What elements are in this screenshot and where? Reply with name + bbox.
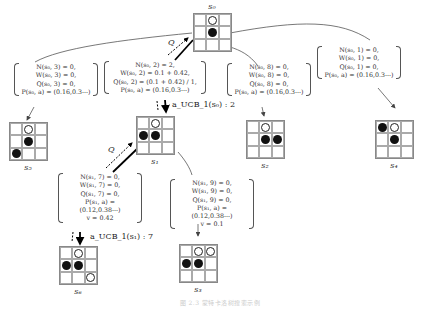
board-cell — [149, 129, 161, 141]
stat-line: P(s₀, a) = (0.16,0.3⋯) — [323, 71, 395, 79]
board-s3 — [179, 244, 218, 283]
board-cell — [149, 117, 161, 129]
brace-left — [317, 46, 322, 79]
stat-value-line: v = 0.42 — [64, 214, 136, 222]
white-stone-icon — [151, 119, 160, 128]
black-stone-icon — [378, 123, 387, 132]
board-cell — [401, 121, 413, 133]
board-cell — [376, 133, 388, 145]
black-stone-icon — [74, 261, 83, 270]
stat-line: N(s₀, 3) = 0, — [20, 63, 92, 71]
white-stone-icon — [208, 16, 217, 25]
stat-line: N(s₀, 2) = 2, — [110, 61, 200, 69]
white-stone-icon — [206, 247, 215, 256]
board-cell — [194, 39, 206, 51]
board-cell — [10, 123, 22, 135]
board-s0 — [193, 13, 232, 52]
brace-right — [137, 173, 142, 223]
stats-s1-a7: N(s₁, 7) = 0, W(s₁, 7) = 0, Q(s₁, 7) = 0… — [64, 173, 136, 223]
stat-line: W(s₀, 2) = 0.1 + 0.42, — [110, 69, 200, 77]
stat-line: N(s₁, 7) = 0, — [64, 173, 136, 181]
board-cell — [180, 257, 192, 269]
black-stone-icon — [208, 28, 217, 37]
board-cell — [192, 257, 204, 269]
stats-s0-a3: N(s₀, 3) = 0, W(s₀, 3) = 0, Q(s₀, 3) = 0… — [20, 63, 92, 96]
board-cell — [247, 121, 259, 133]
stat-line: N(s₀, 8) = 0, — [233, 63, 305, 71]
board-cell — [162, 117, 174, 129]
stat-line: N(s₀, 1) = 0, — [323, 46, 395, 54]
backup-q-label-mid: Q — [108, 145, 115, 154]
stats-s1-a9: N(s₁, 9) = 0, W(s₁, 9) = 0, Q(s₁, 9) = 0… — [176, 179, 248, 229]
board-cell — [206, 26, 218, 38]
stat-line: Q(s₀, 1) = 0, — [323, 63, 395, 71]
black-stone-icon — [390, 135, 399, 144]
board-cell — [60, 272, 72, 284]
brace-left — [14, 63, 19, 96]
board-cell — [85, 259, 97, 271]
label-s1: s₁ — [140, 157, 170, 166]
stat-line: P(s₀, a) = (0.16,0.3⋯) — [233, 88, 305, 96]
board-cell — [35, 123, 47, 135]
board-cell — [205, 270, 217, 282]
board-cell — [247, 146, 259, 158]
stat-line: W(s₀, 1) = 0, — [323, 54, 395, 62]
board-cell — [192, 245, 204, 257]
board-cell — [22, 135, 34, 147]
board-cell — [72, 247, 84, 259]
board-cell — [180, 245, 192, 257]
board-cell — [180, 270, 192, 282]
black-stone-icon — [62, 261, 71, 270]
board-s6 — [59, 246, 98, 285]
label-s6: s₆ — [63, 287, 93, 296]
board-cell — [206, 14, 218, 26]
board-cell — [192, 270, 204, 282]
white-stone-icon — [24, 125, 33, 134]
brace-left — [227, 63, 232, 96]
stat-value-line: v = 0.1 — [176, 220, 248, 228]
board-cell — [35, 135, 47, 147]
board-cell — [22, 148, 34, 160]
black-stone-icon — [139, 131, 148, 140]
board-cell — [259, 121, 271, 133]
black-stone-icon — [194, 259, 203, 268]
board-s4 — [375, 120, 414, 159]
stat-line: P(s₁, a) = (0.12,0.38⋯) — [176, 204, 248, 221]
stat-line: Q(s₀, 2) = (0.1 + 0.42) / 1, — [110, 78, 200, 86]
black-stone-icon — [24, 137, 33, 146]
board-cell — [72, 272, 84, 284]
board-cell — [10, 135, 22, 147]
label-s5: s₅ — [13, 163, 43, 172]
board-cell — [194, 26, 206, 38]
stat-line: Q(s₁, 7) = 0, — [64, 190, 136, 198]
board-cell — [376, 146, 388, 158]
stat-line: Q(s₀, 3) = 0, — [20, 80, 92, 88]
black-stone-icon — [12, 149, 21, 158]
board-cell — [376, 121, 388, 133]
board-cell — [137, 129, 149, 141]
board-cell — [60, 247, 72, 259]
stat-line: W(s₁, 7) = 0, — [64, 181, 136, 189]
black-stone-icon — [261, 135, 270, 144]
label-s0: s₀ — [197, 2, 227, 11]
board-s1 — [136, 116, 175, 155]
board-cell — [272, 146, 284, 158]
stat-line: P(s₀, a) = (0.16,0.3⋯) — [20, 88, 92, 96]
stat-line: P(s₁, a) = (0.12,0.38⋯) — [64, 198, 136, 215]
board-cell — [194, 14, 206, 26]
stat-line: W(s₁, 9) = 0, — [176, 187, 248, 195]
black-stone-icon — [151, 131, 160, 140]
board-cell — [137, 117, 149, 129]
board-cell — [259, 146, 271, 158]
brace-right — [201, 61, 206, 94]
stat-line: Q(s₀, 8) = 0, — [233, 80, 305, 88]
ucb-selection-s1: a_UCB_1(s₁) : 7 — [90, 232, 153, 241]
ucb-selection-s0: a_UCB_1(s₀) : 2 — [172, 100, 235, 109]
stat-line: W(s₀, 3) = 0, — [20, 71, 92, 79]
board-cell — [219, 14, 231, 26]
board-cell — [219, 39, 231, 51]
white-stone-icon — [194, 247, 203, 256]
stats-s0-a2: N(s₀, 2) = 2, W(s₀, 2) = 0.1 + 0.42, Q(s… — [110, 61, 200, 94]
board-cell — [22, 123, 34, 135]
board-s5 — [9, 122, 48, 161]
